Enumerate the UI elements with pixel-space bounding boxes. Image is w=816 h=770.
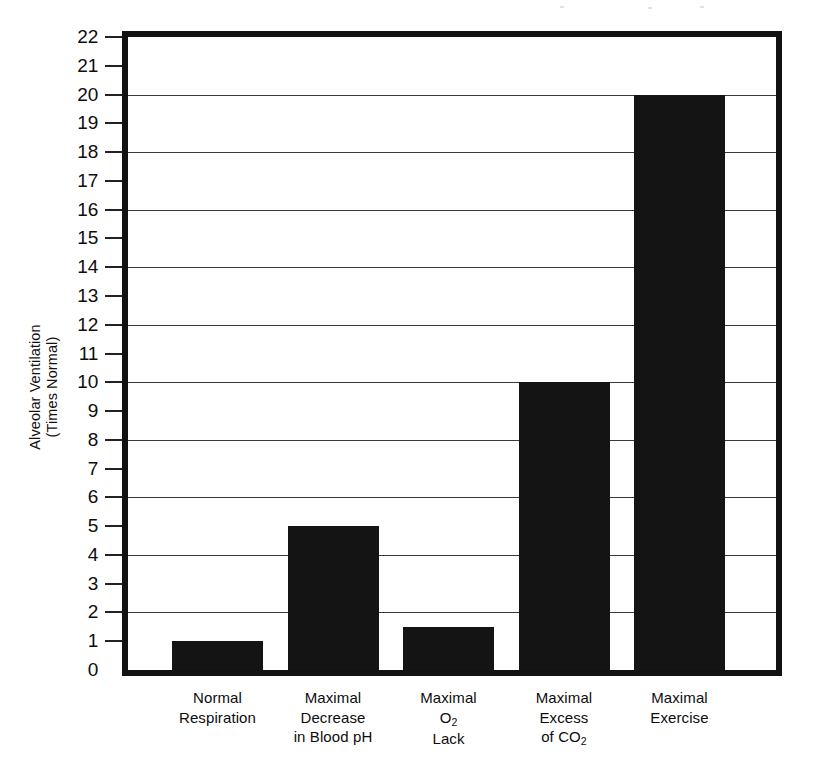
y-tick-label: 17	[58, 171, 98, 190]
y-axis-title: Alveolar Ventilation (Times Normal)	[27, 277, 61, 497]
y-tick-label: 2	[58, 602, 98, 621]
scan-artifact	[700, 6, 704, 8]
y-tick-label: 7	[58, 459, 98, 478]
bar	[172, 641, 263, 670]
y-tick-label: 13	[58, 286, 98, 305]
y-tick-label: 8	[58, 430, 98, 449]
y-tick-label: 10	[58, 372, 98, 391]
y-tick-label: 5	[58, 516, 98, 535]
y-tick-label: 15	[58, 228, 98, 247]
plot-inner	[128, 37, 776, 670]
y-tick-label: 12	[58, 315, 98, 334]
scan-artifact	[648, 7, 652, 9]
y-tick-label: 22	[58, 27, 98, 46]
y-tick-label: 14	[58, 257, 98, 276]
y-tick-label: 16	[58, 200, 98, 219]
bar	[288, 526, 379, 670]
bar	[519, 382, 610, 670]
plot-area	[122, 31, 782, 676]
scan-artifact	[560, 6, 564, 8]
bar	[403, 627, 494, 670]
x-axis-category-label: MaximalExercise	[600, 688, 760, 727]
y-tick-label: 20	[58, 85, 98, 104]
bar-chart-figure: Alveolar Ventilation (Times Normal) 0123…	[0, 0, 816, 770]
bar	[634, 95, 725, 670]
y-tick-label: 19	[58, 113, 98, 132]
y-tick-label: 18	[58, 142, 98, 161]
y-tick-label: 6	[58, 487, 98, 506]
category-label-line: Exercise	[600, 708, 760, 728]
y-tick-label: 3	[58, 574, 98, 593]
y-tick-label: 9	[58, 401, 98, 420]
category-label-line: Maximal	[600, 688, 760, 708]
y-tick-label: 0	[58, 660, 98, 679]
y-tick-label: 4	[58, 545, 98, 564]
y-tick-label: 21	[58, 56, 98, 75]
y-tick-label: 11	[58, 344, 98, 363]
y-tick-label: 1	[58, 631, 98, 650]
category-label-line: of CO2	[484, 727, 644, 749]
